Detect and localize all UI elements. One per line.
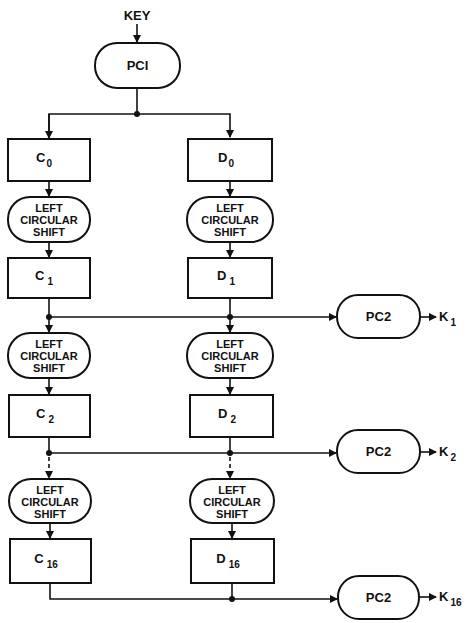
pc2-node-16: PC2 (338, 576, 419, 619)
svg-text:SHIFT: SHIFT (214, 226, 246, 238)
junction-dot (227, 450, 233, 456)
pci-node: PCI (95, 43, 180, 88)
svg-text:SHIFT: SHIFT (34, 508, 66, 520)
svg-text:PC2: PC2 (366, 309, 391, 324)
svg-text:LEFT: LEFT (218, 484, 246, 496)
split-line (49, 114, 230, 137)
d-left-circular-shift-16: LEFT CIRCULAR SHIFT (190, 479, 274, 523)
pc2-node-2: PC2 (337, 430, 420, 473)
svg-text:CIRCULAR: CIRCULAR (20, 214, 77, 226)
d-left-circular-shift-2: LEFT CIRCULAR SHIFT (187, 333, 273, 378)
svg-text:CIRCULAR: CIRCULAR (20, 350, 77, 362)
subkey-k1: K1 (439, 309, 456, 328)
svg-text:CIRCULAR: CIRCULAR (201, 214, 258, 226)
c0-register: C0 (8, 139, 90, 181)
c-left-circular-shift-16: LEFT CIRCULAR SHIFT (9, 479, 91, 523)
svg-text:LEFT: LEFT (36, 484, 64, 496)
d1-register: D1 (188, 258, 272, 298)
pc2-node-1: PC2 (337, 295, 420, 338)
d16-register: D16 (191, 539, 274, 583)
c-left-circular-shift-2: LEFT CIRCULAR SHIFT (8, 333, 90, 378)
svg-text:CIRCULAR: CIRCULAR (201, 350, 258, 362)
svg-text:SHIFT: SHIFT (214, 362, 246, 374)
svg-text:LEFT: LEFT (35, 202, 63, 214)
svg-text:LEFT: LEFT (35, 338, 63, 350)
svg-text:SHIFT: SHIFT (216, 508, 248, 520)
junction-dot (46, 450, 52, 456)
junction-dot (46, 314, 52, 320)
des-key-schedule-diagram: KEY PCI C0 D0 LEFT CIRCULAR SHIFT LEFT C… (0, 0, 467, 623)
svg-text:SHIFT: SHIFT (33, 226, 65, 238)
svg-text:SHIFT: SHIFT (33, 362, 65, 374)
svg-text:PC2: PC2 (366, 590, 391, 605)
key-input-label: KEY (124, 8, 151, 23)
svg-text:LEFT: LEFT (216, 202, 244, 214)
d-left-circular-shift-1: LEFT CIRCULAR SHIFT (187, 197, 273, 242)
d2-register: D2 (190, 395, 273, 437)
round16-merge-line (50, 583, 337, 599)
svg-text:PC2: PC2 (366, 444, 391, 459)
junction-dot (229, 596, 235, 602)
c2-register: C2 (9, 395, 90, 437)
subkey-k2: K2 (439, 444, 456, 463)
svg-text:PCI: PCI (127, 58, 149, 73)
c16-register: C16 (10, 539, 91, 583)
c-left-circular-shift-1: LEFT CIRCULAR SHIFT (8, 197, 90, 242)
svg-text:CIRCULAR: CIRCULAR (21, 496, 78, 508)
junction-dot (227, 314, 233, 320)
svg-text:LEFT: LEFT (216, 338, 244, 350)
d0-register: D0 (188, 139, 272, 181)
subkey-k16: K16 (439, 589, 462, 608)
svg-text:CIRCULAR: CIRCULAR (203, 496, 260, 508)
c1-register: C1 (8, 258, 90, 298)
